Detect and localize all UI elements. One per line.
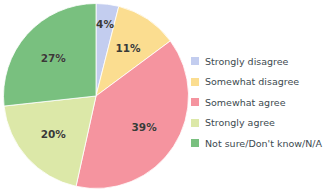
legend-swatch-icon-0 [191,57,199,65]
legend-label-2: Somewhat agree [205,97,286,108]
legend-item-not-sure[interactable]: Not sure/Don't know/N/A [191,134,325,152]
legend-item-somewhat-agree[interactable]: Somewhat agree [191,93,325,111]
slice-value-label-0: 4% [96,18,114,30]
slice-value-label-4: 27% [41,52,66,64]
legend-label-1: Somewhat disagree [205,76,299,87]
pie-plot-area: 4% 11% 39% 20% 27% [0,0,192,189]
legend-label-3: Strongly agree [205,117,275,128]
slice-value-label-3: 20% [41,128,66,140]
legend-item-somewhat-disagree[interactable]: Somewhat disagree [191,73,325,91]
legend-item-strongly-disagree[interactable]: Strongly disagree [191,52,325,70]
legend-label-0: Strongly disagree [205,56,288,67]
chart-legend: Strongly disagree Somewhat disagree Some… [191,52,325,155]
legend-item-strongly-agree[interactable]: Strongly agree [191,114,325,132]
legend-swatch-icon-1 [191,78,199,86]
slice-value-label-2: 39% [132,121,157,133]
legend-swatch-icon-3 [191,119,199,127]
legend-swatch-icon-4 [191,139,199,147]
slice-value-label-1: 11% [115,42,140,54]
legend-swatch-icon-2 [191,98,199,106]
pie-slice-group [4,4,189,189]
pie-chart-figure: 4% 11% 39% 20% 27% Strongly disagree Som… [0,0,325,189]
legend-label-4: Not sure/Don't know/N/A [205,138,322,149]
